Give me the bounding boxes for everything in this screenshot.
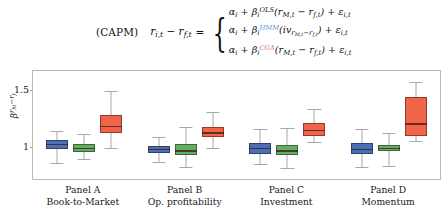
capm-equals: =: [196, 26, 205, 38]
whisker-upper: [185, 127, 186, 144]
whisker-lower: [389, 151, 390, 165]
median-line: [175, 150, 197, 151]
cap-upper: [254, 129, 267, 130]
median-line: [148, 149, 170, 150]
boxplot-a-cga: [100, 71, 122, 179]
panel-label-subtitle: Book-to-Market: [32, 196, 134, 208]
panel-label-d: Panel DMomentum: [337, 184, 439, 208]
whisker-lower: [260, 154, 261, 164]
panel-label-title: Panel A: [65, 184, 100, 195]
capm-case-cga: αi + βiCGA(rM,t − rf,t) + εi,t: [229, 42, 352, 60]
panel-label-title: Panel C: [269, 184, 305, 195]
cap-lower: [281, 168, 294, 169]
y-tick-label: 1.5: [0, 84, 29, 95]
cap-upper: [77, 134, 90, 135]
boxplot-a-hmm: [73, 71, 95, 179]
whisker-lower: [362, 154, 363, 166]
capm-case-ols: αi + βiOLS(rM,t − rf,t) + εi,t: [229, 4, 352, 22]
cap-lower: [308, 142, 321, 143]
cap-lower: [206, 148, 219, 149]
cap-lower: [77, 159, 90, 160]
median-line: [46, 144, 68, 145]
panel-label-title: Panel D: [370, 184, 406, 195]
whisker-upper: [362, 129, 363, 143]
boxplot-d-ols: [351, 71, 373, 179]
brace-icon: {: [213, 12, 227, 52]
whisker-upper: [314, 109, 315, 123]
cap-lower: [383, 166, 396, 167]
whisker-upper: [110, 91, 111, 116]
box-iqr: [100, 115, 122, 133]
whisker-lower: [287, 155, 288, 168]
cap-upper: [104, 91, 117, 92]
cap-upper: [410, 82, 423, 83]
median-line: [276, 150, 298, 151]
whisker-lower: [158, 153, 159, 163]
median-line: [73, 148, 95, 149]
capm-equation: (CAPM) ri,t − rf,t = { αi + βiOLS(rM,t −…: [96, 4, 351, 60]
boxplot-c-hmm: [276, 71, 298, 179]
boxplot-b-ols: [148, 71, 170, 179]
boxplot-a-ols: [46, 71, 68, 179]
whisker-lower: [110, 133, 111, 147]
whisker-upper: [83, 134, 84, 144]
boxplot-d-hmm: [378, 71, 400, 179]
median-line: [202, 132, 224, 133]
cap-upper: [383, 133, 396, 134]
whisker-upper: [260, 129, 261, 143]
boxplot-figure: βrM−rf 11.5 Panel ABook-to-MarketPanel B…: [0, 62, 447, 212]
boxplot-b-hmm: [175, 71, 197, 179]
whisker-upper: [389, 133, 390, 144]
whisker-upper: [287, 128, 288, 145]
panel-label-subtitle: Op. profitability: [134, 196, 236, 208]
whisker-lower: [212, 137, 213, 148]
capm-lhs: ri,t − rf,t: [150, 25, 191, 39]
cap-upper: [179, 127, 192, 128]
whisker-upper: [212, 112, 213, 128]
plot-area: [32, 70, 441, 180]
panel-label-subtitle: Momentum: [337, 196, 439, 208]
cap-upper: [50, 131, 63, 132]
boxplot-c-cga: [303, 71, 325, 179]
panel-label-subtitle: Investment: [236, 196, 338, 208]
panel-label-a: Panel ABook-to-Market: [32, 184, 134, 208]
capm-equation-block: (CAPM) ri,t − rf,t = { αi + βiOLS(rM,t −…: [0, 0, 447, 62]
median-line: [303, 130, 325, 131]
whisker-lower: [83, 152, 84, 159]
median-line: [378, 148, 400, 149]
capm-label: (CAPM): [96, 26, 138, 38]
cap-upper: [206, 112, 219, 113]
cap-lower: [50, 163, 63, 164]
capm-cases: αi + βiOLS(rM,t − rf,t) + εi,t αi + βiHM…: [229, 4, 352, 60]
panel-label-b: Panel BOp. profitability: [134, 184, 236, 208]
y-tick-label: 1: [0, 141, 29, 152]
cap-lower: [356, 167, 369, 168]
beta-superscript-hmm: HMM: [259, 24, 279, 32]
boxplot-c-ols: [249, 71, 271, 179]
panel-label-c: Panel CInvestment: [236, 184, 338, 208]
whisker-upper: [416, 82, 417, 97]
box-iqr: [405, 97, 427, 136]
whisker-lower: [56, 149, 57, 163]
median-line: [405, 123, 427, 124]
cap-lower: [254, 164, 267, 165]
capm-case-mid: αi + βiHMM(ivrM,t−rf,t) + εi,t: [229, 22, 352, 42]
whisker-lower: [185, 155, 186, 166]
cap-upper: [281, 128, 294, 129]
panel-label-title: Panel B: [167, 184, 202, 195]
boxplot-d-cga: [405, 71, 427, 179]
boxplot-b-cga: [202, 71, 224, 179]
beta-superscript-ols: OLS: [259, 6, 274, 14]
cap-upper: [356, 129, 369, 130]
median-line: [249, 148, 271, 149]
whisker-upper: [56, 131, 57, 141]
median-line: [351, 149, 373, 150]
cap-lower: [410, 141, 423, 142]
cap-upper: [308, 109, 321, 110]
cap-lower: [152, 162, 165, 163]
cap-upper: [152, 137, 165, 138]
cap-lower: [179, 167, 192, 168]
median-line: [100, 126, 122, 127]
beta-superscript-cga: CGA: [259, 44, 274, 52]
whisker-upper: [158, 137, 159, 146]
